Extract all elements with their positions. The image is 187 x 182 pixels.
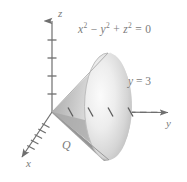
- region-label-q: Q: [62, 139, 71, 151]
- plane-label: y = 3: [128, 76, 151, 88]
- equation-minus: −: [87, 23, 100, 35]
- equation-plus: +: [110, 23, 123, 35]
- axis-x-ticks: [27, 124, 49, 150]
- axis-x-line: [22, 112, 52, 157]
- equation-equals-zero: = 0: [132, 23, 151, 35]
- axis-z: [48, 21, 57, 112]
- plane-label-value: 3: [145, 75, 151, 87]
- plane-label-equals: =: [133, 75, 145, 87]
- cone-figure: x2 − y2 + z2 = 0 y = 3 z y x Q: [0, 0, 187, 182]
- equation-label: x2 − y2 + z2 = 0: [78, 24, 151, 36]
- axis-label-z: z: [58, 8, 62, 19]
- axis-label-x: x: [26, 158, 31, 169]
- axis-label-y: y: [166, 118, 171, 129]
- axis-x: [22, 112, 52, 157]
